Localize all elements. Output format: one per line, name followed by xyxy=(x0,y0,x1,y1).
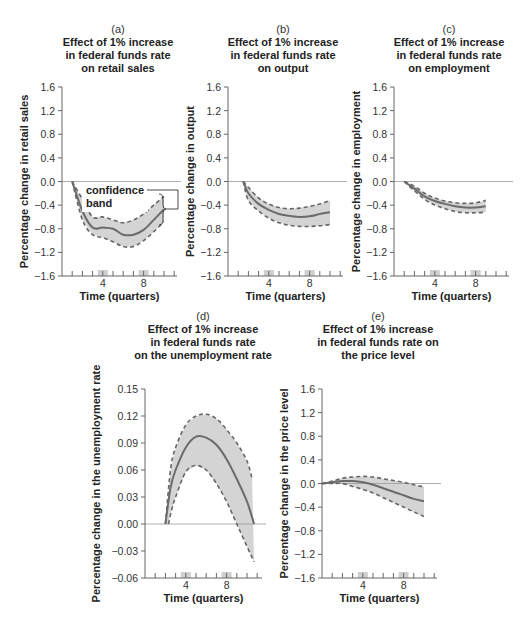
y-tick-label: 0.0 xyxy=(300,478,315,490)
y-tick-label: −1.6 xyxy=(200,270,221,282)
y-tick-label: 1.6 xyxy=(40,81,55,93)
panel-title-line: in federal funds rate xyxy=(396,49,501,61)
y-tick-label: 1.2 xyxy=(206,105,221,117)
y-tick-label: 0.12 xyxy=(118,410,139,422)
y-tick-label: 0.03 xyxy=(118,491,139,503)
y-tick-label: −1.6 xyxy=(366,270,387,282)
y-axis-label: Percentage change in the unemployment ra… xyxy=(90,365,102,603)
x-tick-label: 4 xyxy=(432,277,438,289)
y-tick-label: 1.2 xyxy=(372,105,387,117)
y-tick-label: 0.0 xyxy=(372,176,387,188)
y-tick-label: 0.8 xyxy=(40,128,55,140)
y-tick-label: −0.8 xyxy=(34,223,55,235)
x-tick-label: 4 xyxy=(266,277,272,289)
y-tick-label: −0.8 xyxy=(200,223,221,235)
panel-b: (b)Effect of 1% increasein federal funds… xyxy=(184,23,347,302)
panel-title-line: the price level xyxy=(341,349,414,361)
panel-title-line: on the unemployment rate xyxy=(134,349,272,361)
panel-title-line: on retail sales xyxy=(81,62,154,74)
x-axis-label: Time (quarters) xyxy=(246,290,326,302)
figure-canvas: (a)Effect of 1% increasein federal funds… xyxy=(0,0,524,633)
x-tick-label: 8 xyxy=(224,579,230,591)
x-axis-label: Time (quarters) xyxy=(80,290,160,302)
panel-title-line: in federal funds rate xyxy=(65,49,170,61)
y-tick-label: 0.4 xyxy=(40,152,55,164)
panel-a: (a)Effect of 1% increasein federal funds… xyxy=(18,23,181,302)
panel-title-line: Effect of 1% increase xyxy=(63,36,174,48)
y-tick-label: 0.8 xyxy=(206,128,221,140)
y-tick-label: −1.2 xyxy=(34,246,55,258)
confidence-band xyxy=(243,182,330,227)
y-tick-label: −0.8 xyxy=(294,525,315,537)
panel-letter: (a) xyxy=(111,23,124,35)
y-tick-label: 0.4 xyxy=(300,454,315,466)
x-tick-label: 8 xyxy=(307,277,313,289)
y-tick-label: −0.4 xyxy=(34,199,55,211)
y-tick-label: −0.4 xyxy=(200,199,221,211)
panel-title-line: Effect of 1% increase xyxy=(228,36,339,48)
y-tick-label: 0.09 xyxy=(118,437,139,449)
panel-d: (d)Effect of 1% increasein federal funds… xyxy=(90,310,272,604)
panel-letter: (e) xyxy=(371,310,384,322)
panel-c: (c)Effect of 1% increasein federal funds… xyxy=(350,23,513,302)
y-tick-label: −1.2 xyxy=(294,548,315,560)
panel-letter: (b) xyxy=(276,23,289,35)
panel-title-line: on output xyxy=(258,62,309,74)
x-tick-label: 8 xyxy=(473,277,479,289)
y-tick-label: 0.4 xyxy=(206,152,221,164)
y-tick-label: −0.03 xyxy=(111,545,138,557)
y-tick-label: 0.8 xyxy=(372,128,387,140)
panel-title-line: in federal funds rate xyxy=(150,336,255,348)
y-tick-label: 0.15 xyxy=(118,383,139,395)
panel-title-line: Effect of 1% increase xyxy=(323,323,434,335)
annotation-line: band xyxy=(86,197,112,209)
y-tick-label: 0.00 xyxy=(118,518,139,530)
x-tick-label: 8 xyxy=(401,579,407,591)
x-tick-label: 8 xyxy=(141,277,147,289)
y-tick-label: −1.2 xyxy=(366,246,387,258)
y-tick-label: 1.6 xyxy=(372,81,387,93)
x-tick-label: 4 xyxy=(360,579,366,591)
x-axis-label: Time (quarters) xyxy=(164,592,244,604)
y-tick-label: 0.06 xyxy=(118,464,139,476)
y-tick-label: −0.06 xyxy=(111,572,138,584)
y-tick-label: −0.8 xyxy=(366,223,387,235)
panel-letter: (d) xyxy=(196,310,209,322)
panel-title-line: Effect of 1% increase xyxy=(148,323,259,335)
y-axis-label: Percentage change in the price level xyxy=(278,388,290,578)
y-tick-label: 0.0 xyxy=(206,176,221,188)
y-axis-label: Percentage change in retail sales xyxy=(18,95,30,269)
y-tick-label: 1.2 xyxy=(300,407,315,419)
panel-title-line: Effect of 1% increase xyxy=(394,36,505,48)
y-tick-label: 1.2 xyxy=(40,105,55,117)
x-tick-label: 4 xyxy=(183,579,189,591)
y-tick-label: −0.4 xyxy=(366,199,387,211)
y-tick-label: 0.0 xyxy=(40,176,55,188)
y-tick-label: 0.8 xyxy=(300,430,315,442)
x-axis-label: Time (quarters) xyxy=(412,290,492,302)
y-tick-label: −1.2 xyxy=(200,246,221,258)
y-tick-label: −0.4 xyxy=(294,501,315,513)
y-tick-label: 0.4 xyxy=(372,152,387,164)
annotation-line: confidence xyxy=(86,184,144,196)
y-axis-label: Percentage change in output xyxy=(184,106,196,257)
panel-e: (e)Effect of 1% increasein federal funds… xyxy=(278,310,441,604)
y-tick-label: 1.6 xyxy=(206,81,221,93)
x-tick-label: 4 xyxy=(100,277,106,289)
panel-letter: (c) xyxy=(443,23,456,35)
panel-title-line: on employment xyxy=(408,62,490,74)
y-tick-label: 1.6 xyxy=(300,383,315,395)
panel-title-line: in federal funds rate xyxy=(230,49,335,61)
y-axis-label: Percentage change in employment xyxy=(350,90,362,272)
y-tick-label: −1.6 xyxy=(294,572,315,584)
panel-title-line: in federal funds rate on xyxy=(317,336,439,348)
y-tick-label: −1.6 xyxy=(34,270,55,282)
x-axis-label: Time (quarters) xyxy=(340,592,420,604)
